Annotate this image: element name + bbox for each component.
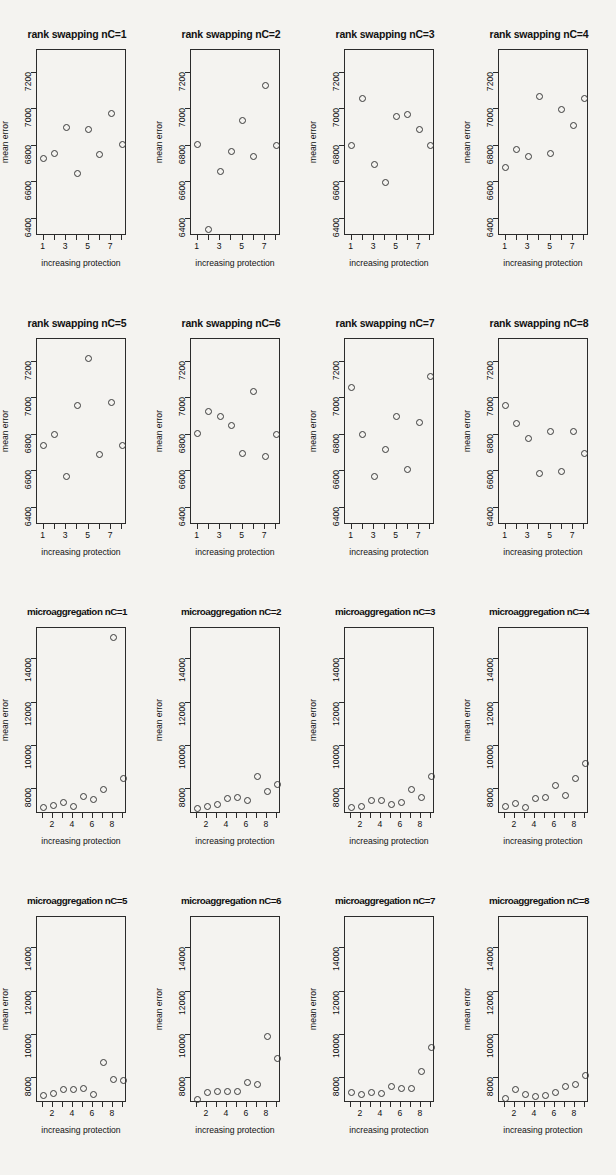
x-axis-tick [351, 523, 352, 529]
y-axis-tick-value: 7200 [486, 72, 495, 91]
x-axis-tick-label: 1 [502, 242, 507, 251]
data-point [582, 760, 589, 767]
x-axis-tick [92, 812, 93, 818]
data-point [234, 794, 241, 801]
x-axis-tick [219, 234, 220, 240]
x-axis-label: increasing protection [344, 1125, 434, 1135]
y-axis-tick-value: 6400 [332, 507, 341, 526]
data-point [502, 1095, 509, 1102]
x-axis-tick-label: 8 [418, 1109, 423, 1118]
x-axis-tick [534, 1101, 535, 1107]
y-axis-tick-value: 6400 [332, 218, 341, 237]
x-axis-tick-label: 1 [502, 531, 507, 540]
y-axis-tick-value: 10000 [332, 745, 341, 769]
x-axis-tick [572, 523, 573, 529]
data-point [50, 1090, 57, 1097]
plot-area: 80001000012000140002468 [498, 627, 588, 813]
x-axis-tick-label: 7 [416, 531, 421, 540]
data-point [274, 1055, 281, 1062]
y-axis-tick-value: 6600 [178, 470, 187, 489]
data-point [562, 1083, 569, 1090]
x-axis-tick-label: 1 [194, 242, 199, 251]
plot-panel: rank swapping nC=4mean errorincreasing p… [462, 18, 616, 307]
data-point [348, 384, 355, 391]
y-axis-tick-value: 12000 [486, 702, 495, 726]
x-axis-tick [256, 812, 257, 818]
x-axis-tick-label: 2 [204, 1109, 209, 1118]
data-point [96, 451, 103, 458]
data-point [359, 431, 366, 438]
data-point [552, 1089, 559, 1096]
y-axis-tick-value: 7000 [486, 108, 495, 127]
x-axis-tick [208, 523, 209, 529]
x-axis-tick [62, 1101, 63, 1107]
data-point [393, 413, 400, 420]
x-axis-tick [373, 523, 374, 529]
y-axis-tick-value: 8000 [178, 788, 187, 807]
data-point [378, 797, 385, 804]
x-axis-tick [52, 812, 53, 818]
x-axis-tick [246, 1101, 247, 1107]
panel-title: rank swapping nC=7 [308, 317, 462, 329]
grid-spacer [462, 0, 616, 18]
y-axis-tick-value: 8000 [332, 788, 341, 807]
panel-title: rank swapping nC=5 [0, 317, 154, 329]
plot-panel: rank swapping nC=5mean errorincreasing p… [0, 307, 154, 596]
x-axis-tick-label: 6 [398, 820, 403, 829]
y-axis-tick-value: 6800 [332, 145, 341, 164]
plot-panel: microaggregation nC=8mean errorincreasin… [462, 885, 616, 1174]
x-axis-tick-label: 6 [90, 1109, 95, 1118]
x-axis-tick [505, 234, 506, 240]
x-axis-tick [65, 234, 66, 240]
x-axis-tick [264, 234, 265, 240]
x-axis-label: increasing protection [344, 547, 434, 557]
y-axis-tick-value: 8000 [486, 788, 495, 807]
x-axis-tick [429, 523, 430, 529]
y-axis-tick-value: 6400 [24, 218, 33, 237]
data-point [418, 1068, 425, 1075]
y-axis-tick-value: 8000 [178, 1077, 187, 1096]
data-point [194, 1096, 201, 1103]
x-axis-tick [360, 812, 361, 818]
data-point [371, 161, 378, 168]
x-axis-tick-label: 1 [40, 531, 45, 540]
data-point [70, 803, 77, 810]
x-axis-tick [524, 812, 525, 818]
data-point [96, 151, 103, 158]
x-axis-tick [246, 812, 247, 818]
x-axis-tick-label: 2 [512, 1109, 517, 1118]
x-axis-tick [564, 1101, 565, 1107]
x-axis-tick [564, 812, 565, 818]
x-axis-tick [197, 523, 198, 529]
data-point [502, 164, 509, 171]
x-axis-tick [583, 523, 584, 529]
x-axis-tick [42, 812, 43, 818]
y-axis-tick-value: 6800 [332, 434, 341, 453]
x-axis-tick-label: 6 [398, 1109, 403, 1118]
x-axis-tick [121, 523, 122, 529]
panel-title: rank swapping nC=8 [462, 317, 616, 329]
data-point [522, 1091, 529, 1098]
x-axis-tick [574, 1101, 575, 1107]
x-axis-tick [276, 812, 277, 818]
x-axis-tick-label: 4 [378, 820, 383, 829]
data-point [512, 1086, 519, 1093]
x-axis-tick-label: 6 [552, 1109, 557, 1118]
x-axis-tick-label: 3 [217, 531, 222, 540]
y-axis-tick-value: 6600 [486, 470, 495, 489]
x-axis-tick [362, 234, 363, 240]
x-axis-label: increasing protection [498, 258, 588, 268]
data-point [194, 141, 201, 148]
x-axis-tick [112, 1101, 113, 1107]
x-axis-tick-label: 4 [224, 1109, 229, 1118]
x-axis-tick [516, 523, 517, 529]
x-axis-tick [216, 1101, 217, 1107]
data-point [60, 1086, 67, 1093]
x-axis-tick [122, 1101, 123, 1107]
y-axis-tick-value: 10000 [486, 745, 495, 769]
plot-area: 640066006800700072001357 [36, 49, 126, 235]
data-point [80, 793, 87, 800]
y-axis-label: mean error [154, 121, 164, 163]
data-point [513, 420, 520, 427]
y-axis-label: mean error [308, 121, 318, 163]
